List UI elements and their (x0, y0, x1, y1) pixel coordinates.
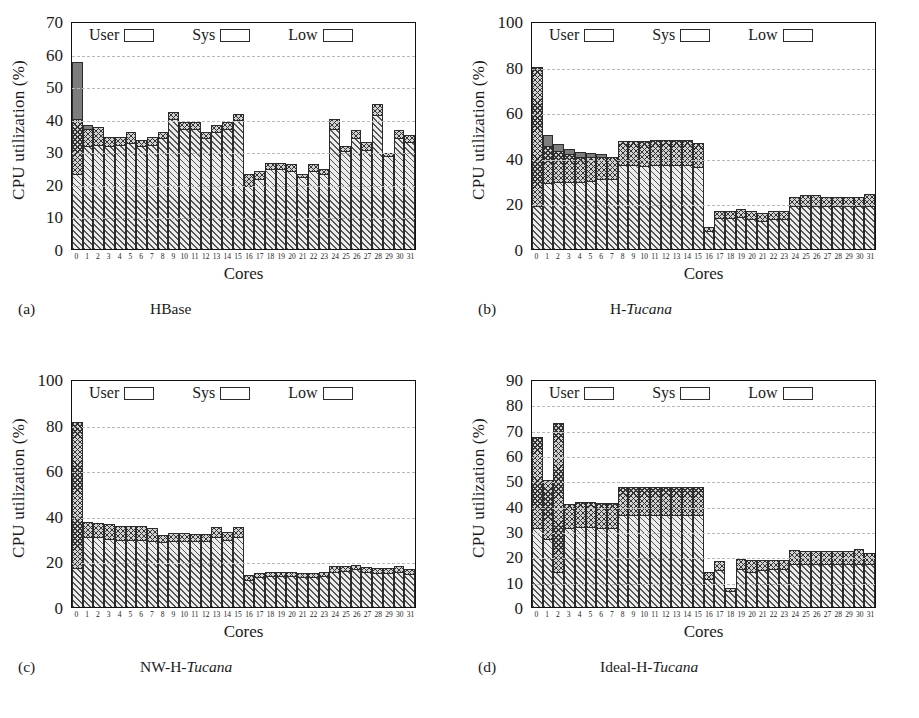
gridline (72, 153, 415, 154)
x-tick-label: 8 (157, 253, 168, 261)
bar-column (265, 23, 276, 249)
bar-segment-user (276, 576, 287, 607)
x-tick-label: 7 (606, 253, 617, 261)
x-ticks-b: 0123456789101112131415161718192021222324… (531, 253, 876, 261)
bar-segment-user (329, 572, 340, 607)
bar-segment-sys (693, 487, 704, 515)
bar-segment-sys (843, 197, 854, 206)
bar-column (168, 381, 179, 607)
bar-column (319, 381, 330, 607)
bar-column (832, 381, 843, 607)
bar-segment-sys (736, 559, 747, 569)
y-tick-label: 10 (46, 209, 63, 226)
bar-segment-user (607, 179, 618, 249)
x-tick-label: 13 (211, 253, 222, 261)
bar-column (126, 23, 137, 249)
bar-segment-user (126, 143, 137, 249)
bar-column (704, 381, 715, 607)
y-axis-title-b: CPU utilization (%) (466, 0, 492, 260)
bar-column (93, 381, 104, 607)
bar-segment-user (83, 146, 94, 249)
bar-column (126, 381, 137, 607)
bar-segment-user (757, 570, 768, 607)
bar-segment-sys (661, 487, 672, 515)
x-tick-label: 23 (779, 611, 790, 619)
bar-segment-user (361, 572, 372, 607)
x-tick-label: 17 (714, 611, 725, 619)
y-tick-label: 50 (46, 79, 63, 96)
bar-segment-sys (746, 211, 757, 219)
x-tick-label: 4 (114, 253, 125, 261)
bar-column (768, 381, 779, 607)
bar-column (736, 381, 747, 607)
bar-column (725, 23, 736, 249)
x-tick-label: 19 (736, 611, 747, 619)
bar-column (671, 23, 682, 249)
bar-segment-user (83, 537, 94, 607)
bar-column (254, 381, 265, 607)
x-tick-label: 26 (351, 253, 362, 261)
gridline (532, 508, 875, 509)
subplot-caption-a: HBase (150, 300, 191, 318)
bar-segment-user (596, 179, 607, 249)
gridline (532, 482, 875, 483)
bar-segment-user (286, 576, 297, 607)
bar-column (757, 23, 768, 249)
bar-segment-user (383, 573, 394, 607)
bar-column (543, 23, 554, 249)
gridline (72, 186, 415, 187)
y-ticks-a: 010203040506070 (33, 22, 67, 250)
bar-segment-user (319, 576, 330, 607)
subplot-tag-b: (b) (478, 300, 496, 318)
x-tick-label: 20 (287, 611, 298, 619)
x-tick-label: 1 (542, 611, 553, 619)
bar-segment-sys (222, 532, 233, 540)
gridline (72, 563, 415, 564)
bar-column (543, 381, 554, 607)
bar-column (136, 381, 147, 607)
y-tick-label: 80 (46, 417, 63, 434)
bar-segment-sys (179, 533, 190, 541)
bar-segment-user (854, 206, 865, 249)
bar-segment-user (682, 165, 693, 249)
bar-segment-user (768, 569, 779, 607)
bar-segment-user (147, 541, 158, 607)
bar-column (147, 381, 158, 607)
y-tick-label: 30 (46, 144, 63, 161)
bar-column (800, 381, 811, 607)
bar-segment-user (351, 569, 362, 607)
y-tick-label: 20 (46, 554, 63, 571)
bar-segment-user (575, 182, 586, 249)
bar-segment-sys (757, 213, 768, 221)
bar-column (553, 23, 564, 249)
gridline (532, 584, 875, 585)
x-tick-label: 30 (854, 253, 865, 261)
bar-column (736, 23, 747, 249)
gridline (72, 472, 415, 473)
bar-column (361, 381, 372, 607)
y-axis-title-a: CPU utilization (%) (6, 0, 32, 260)
bar-column (351, 23, 362, 249)
x-tick-label: 8 (617, 253, 628, 261)
bar-segment-user (757, 221, 768, 250)
bar-segment-user (854, 564, 865, 607)
bar-segment-sys (93, 127, 104, 145)
plot-frame-d (531, 380, 876, 608)
bar-column (811, 23, 822, 249)
x-tick-label: 28 (833, 253, 844, 261)
bar-column (714, 23, 725, 249)
x-tick-label: 18 (725, 611, 736, 619)
y-tick-label: 80 (506, 59, 523, 76)
bar-segment-user (190, 129, 201, 250)
x-tick-label: 16 (244, 611, 255, 619)
y-ticks-d: 0102030405060708090 (493, 380, 527, 608)
x-tick-label: 9 (628, 253, 639, 261)
x-tick-label: 28 (833, 611, 844, 619)
subplot-a: CPU utilization (%) 010203040506070 0123… (0, 0, 459, 340)
bar-column (639, 381, 650, 607)
bar-column (607, 23, 618, 249)
bar-segment-sys (618, 141, 629, 165)
bar-segment-user (211, 537, 222, 607)
bar-segment-user (843, 564, 854, 607)
bar-column (671, 381, 682, 607)
